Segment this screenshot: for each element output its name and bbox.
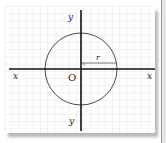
origin-label: O	[68, 72, 76, 83]
y-axis-label-bottom: y	[68, 116, 75, 126]
coordinate-diagram: x x y y O r	[0, 0, 166, 143]
x-axis-label-left: x	[13, 71, 18, 81]
y-axis-label-top: y	[67, 12, 74, 22]
x-axis-label-right: x	[147, 71, 152, 81]
